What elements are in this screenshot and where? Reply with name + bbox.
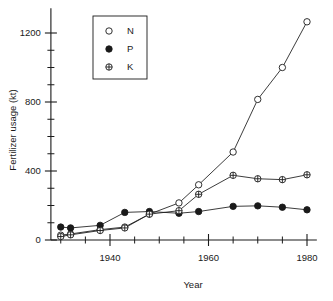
point-P-1958-filled-circle: [195, 208, 201, 214]
chart-canvas: 04008001200194019601980 NPK Fertilizer u…: [0, 0, 333, 301]
x-axis-title: Year: [183, 279, 202, 290]
point-N-1980-open-circle: [304, 19, 310, 25]
point-N-1965-open-circle: [230, 149, 236, 155]
legend-label-P: P: [127, 43, 133, 54]
point-N-1970-open-circle: [255, 96, 261, 102]
y-tick-label: 1200: [20, 27, 41, 38]
legend-frame: [93, 16, 147, 79]
chart-legend: NPK: [93, 16, 147, 79]
point-N-1954-open-circle: [176, 200, 182, 206]
legend-marker-N-open-circle: [106, 28, 112, 34]
y-axis-title: Fertilizer usage (kt): [7, 89, 18, 170]
legend-label-K: K: [127, 61, 134, 72]
y-tick-label: 400: [25, 165, 41, 176]
point-P-1975-filled-circle: [279, 204, 285, 210]
x-tick-label: 1980: [296, 252, 317, 263]
x-tick-label: 1960: [198, 252, 219, 263]
point-N-1975-open-circle: [279, 64, 285, 70]
point-P-1970-filled-circle: [255, 203, 261, 209]
point-N-1958-open-circle: [195, 182, 201, 188]
legend-marker-P-filled-circle: [106, 46, 112, 52]
series-K: [58, 172, 311, 240]
point-P-1943-filled-circle: [122, 209, 128, 215]
x-tick-label: 1940: [99, 252, 120, 263]
y-tick-label: 800: [25, 96, 41, 107]
axes: [51, 8, 317, 240]
legend-label-N: N: [127, 25, 134, 36]
point-P-1930-filled-circle: [58, 224, 64, 230]
point-P-1965-filled-circle: [230, 203, 236, 209]
point-P-1980-filled-circle: [304, 207, 310, 213]
fertilizer-usage-chart: 04008001200194019601980 NPK Fertilizer u…: [0, 0, 333, 301]
y-tick-label: 0: [36, 234, 41, 245]
point-P-1932-filled-circle: [67, 225, 73, 231]
